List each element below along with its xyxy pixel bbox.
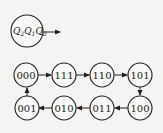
state-001: 001 (15, 96, 39, 120)
svg-text:100: 100 (130, 103, 149, 114)
svg-text:001: 001 (17, 103, 36, 114)
state-100: 100 (128, 96, 152, 120)
state-010: 010 (52, 96, 76, 120)
state-000: 000 (14, 63, 38, 87)
transitions (27, 75, 140, 108)
state-011: 011 (90, 96, 114, 120)
svg-text:110: 110 (92, 70, 111, 81)
state-101: 101 (128, 63, 152, 87)
state-111: 111 (52, 63, 76, 87)
legend-label: Q2Q1Q0 (13, 26, 47, 37)
svg-text:010: 010 (54, 103, 73, 114)
svg-text:111: 111 (54, 70, 73, 81)
state-diagram: Q2Q1Q0 000 111 110 101 100 011 (0, 0, 163, 133)
state-110: 110 (90, 63, 114, 87)
svg-text:000: 000 (16, 70, 35, 81)
svg-text:011: 011 (92, 103, 111, 114)
legend: Q2Q1Q0 (11, 15, 60, 47)
svg-text:101: 101 (130, 70, 149, 81)
